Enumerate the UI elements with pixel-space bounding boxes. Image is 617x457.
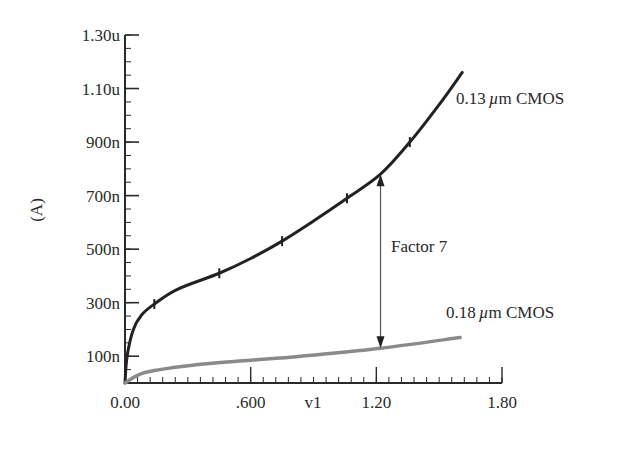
x-axis-label: v1 bbox=[305, 393, 322, 412]
series-label-013: 0.13µm CMOS bbox=[456, 89, 564, 108]
y-tick-label: 1.30u bbox=[82, 26, 121, 45]
series-013um-line bbox=[125, 72, 462, 383]
x-tick-label: .600 bbox=[236, 393, 266, 412]
x-tick-label: 1.20 bbox=[361, 393, 391, 412]
y-tick-label: 700n bbox=[86, 187, 121, 206]
y-tick-label: 100n bbox=[86, 347, 121, 366]
plot-area bbox=[125, 72, 462, 383]
chart: 100n300n500n700n900n1.10u1.30u 0.00.6001… bbox=[0, 0, 617, 457]
x-tick-label: 0.00 bbox=[110, 393, 140, 412]
axes bbox=[125, 35, 502, 383]
y-axis-ticks: 100n300n500n700n900n1.10u1.30u bbox=[82, 26, 139, 383]
x-tick-label: 1.80 bbox=[487, 393, 517, 412]
factor-annotation: Factor 7 bbox=[391, 237, 448, 256]
series-018um-line bbox=[125, 337, 460, 383]
series-label-018: 0.18µm CMOS bbox=[446, 303, 554, 322]
y-tick-label: 900n bbox=[86, 133, 121, 152]
y-axis-label: (A) bbox=[27, 198, 46, 222]
y-tick-label: 1.10u bbox=[82, 80, 121, 99]
y-tick-label: 500n bbox=[86, 240, 121, 259]
y-tick-label: 300n bbox=[86, 294, 121, 313]
